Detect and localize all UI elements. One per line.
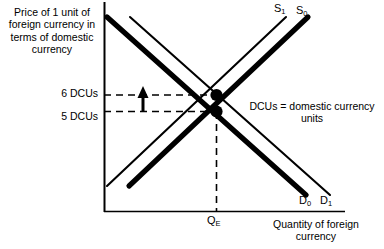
demand-d0-letter: D (299, 194, 307, 206)
demand-d1-letter: D (320, 194, 328, 206)
supply-s1-subscript: 1 (281, 7, 285, 16)
supply-curve-label-s1: S1 (274, 2, 286, 15)
demand-d0-subscript: 0 (307, 199, 311, 208)
equilibrium-point-original (210, 105, 222, 117)
demand-d1-subscript: 1 (328, 199, 332, 208)
qe-subscript: E (216, 219, 221, 228)
price-increase-arrow (138, 86, 149, 112)
demand-curve-label-d1: D1 (320, 194, 332, 207)
demand-curve-label-d0: D0 (299, 194, 311, 207)
supply-curve-label-s0: S0 (296, 4, 308, 17)
qe-letter: Q (207, 214, 216, 226)
price-tick-label-low: 5 DCUs (26, 110, 98, 122)
legend-note: DCUs = domestic currency units (244, 100, 380, 125)
currency-market-diagram: Price of 1 unit of foreign currency in t… (0, 0, 384, 249)
equilibrium-point-new (210, 89, 222, 101)
price-tick-label-high: 6 DCUs (26, 87, 98, 99)
y-axis-title: Price of 1 unit of foreign currency in t… (2, 6, 102, 56)
quantity-tick-label-qe: QE (207, 214, 221, 227)
x-axis-title: Quantity of foreign currency (254, 218, 378, 243)
supply-s0-subscript: 0 (303, 9, 307, 18)
